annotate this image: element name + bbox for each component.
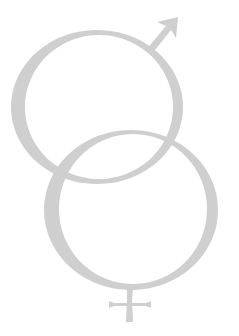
male-symbol-ring-icon xyxy=(11,30,183,184)
symbols-svg xyxy=(0,0,239,336)
female-symbol-ring-icon xyxy=(44,130,218,290)
male-symbol-arrow-icon xyxy=(146,26,171,55)
gender-symbols-illustration: ♂ ♀ xyxy=(0,0,239,336)
